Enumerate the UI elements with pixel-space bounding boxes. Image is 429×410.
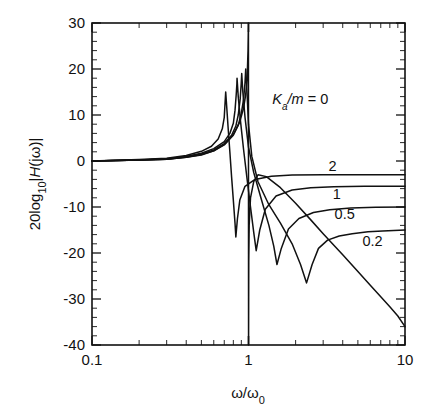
curve-label-0p2: 0.2 [362, 233, 382, 249]
y-axis-tick-labels: 3020100-10-20-30-40 [63, 14, 85, 353]
curve-annotations: Ka/m = 0210.50.2 [272, 91, 382, 249]
svg-text:20log10|H(jω)|: 20log10|H(jω)| [26, 138, 48, 231]
curve-label-0p5: 0.5 [335, 206, 355, 222]
curve-label-1: 1 [333, 186, 341, 202]
x-tick-label: 10 [397, 351, 414, 368]
y-axis-title: 20log10|H(jω)| [26, 138, 48, 231]
y-tick-label: 20 [68, 60, 85, 77]
x-axis-title: ω/ω0 [231, 384, 265, 406]
svg-text:ω/ω0: ω/ω0 [231, 384, 265, 406]
curve-label-2: 2 [329, 158, 337, 174]
x-tick-label: 1 [244, 351, 252, 368]
x-axis-tick-labels: 0.1110 [82, 351, 414, 368]
data-curves [92, 23, 405, 345]
x-tick-label: 0.1 [82, 351, 103, 368]
y-tick-label: 30 [68, 14, 85, 31]
chart-canvas: 3020100-10-20-30-40 0.1110 Ka/m = 0210.5… [0, 0, 429, 410]
curve-label-0: Ka/m = 0 [272, 91, 328, 112]
y-tick-label: -30 [63, 290, 85, 307]
y-tick-label: 10 [68, 106, 85, 123]
y-tick-label: -10 [63, 198, 85, 215]
y-tick-label: 0 [77, 152, 85, 169]
y-tick-label: -20 [63, 244, 85, 261]
bode-magnitude-figure: 3020100-10-20-30-40 0.1110 Ka/m = 0210.5… [0, 0, 429, 410]
